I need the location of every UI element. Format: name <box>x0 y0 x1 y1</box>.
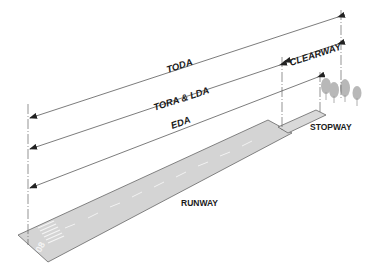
runway: 08 <box>18 120 292 262</box>
clearway-label: CLEARWAY <box>288 40 344 68</box>
toda-label: TODA <box>165 56 194 75</box>
tora-lda-label: TORA & LDA <box>152 84 211 112</box>
runway-centerline <box>65 141 252 228</box>
declared-distances-diagram: 08 TODA TORA & LDA EDA CLEARWAY STOPWA <box>0 0 376 269</box>
tree-icon <box>340 79 350 102</box>
tree-icon <box>329 82 339 103</box>
tree-icon <box>353 86 362 106</box>
runway-label: RUNWAY <box>181 198 218 208</box>
stopway-label: STOPWAY <box>310 122 352 132</box>
eda-label: EDA <box>169 114 192 131</box>
